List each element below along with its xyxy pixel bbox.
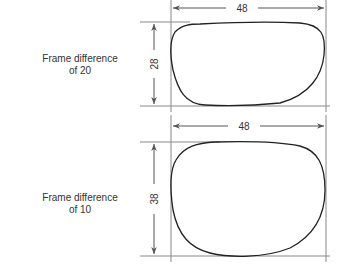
panel-2-width-label: 48 xyxy=(238,121,250,132)
lens-outline-1 xyxy=(171,22,325,105)
lens-outline-2 xyxy=(171,142,325,257)
panel-2-diagram: 48 38 xyxy=(140,115,330,262)
panel-1-width-label: 48 xyxy=(236,3,248,14)
panel-1-height-label: 28 xyxy=(149,58,160,70)
panel-1-diagram: 48 28 xyxy=(140,0,330,112)
lens-shape-diagram: 48 28 48 38 xyxy=(0,0,338,266)
panel-2-height-label: 38 xyxy=(149,193,160,205)
